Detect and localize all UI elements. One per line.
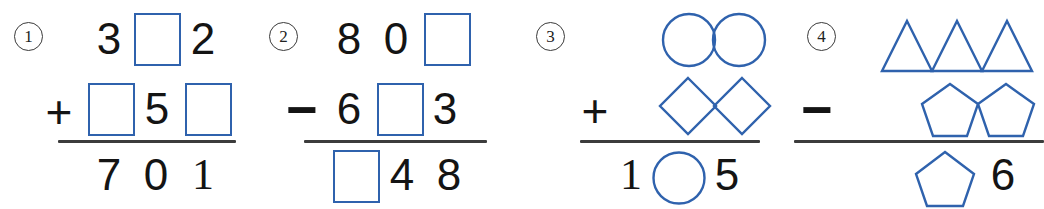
digit-cell: 5 — [710, 153, 744, 197]
digit-cell: 0 — [379, 17, 413, 61]
answer-rule — [58, 140, 236, 143]
blank-box[interactable] — [377, 83, 424, 136]
problem-index-badge: 1 — [14, 22, 43, 51]
digit-cell: 3 — [428, 87, 462, 131]
worksheet-sheet: 1 3 2 + 5 7 0 1 2 8 0 − 6 3 4 8 3 — [0, 0, 1044, 209]
digit-cell: 6 — [986, 153, 1020, 197]
problem-2: 2 8 0 − 6 3 4 8 — [258, 0, 506, 209]
pentagon-shape — [914, 150, 976, 208]
blank-box[interactable] — [424, 13, 471, 66]
digit-cell: 5 — [140, 87, 174, 131]
problem-3: 3 + 1 5 — [506, 0, 760, 209]
digit-cell: 3 — [92, 17, 126, 61]
problem-index-badge: 3 — [536, 22, 565, 51]
digit-cell: 1 — [618, 153, 644, 197]
digit-cell: 8 — [332, 17, 366, 61]
blank-box[interactable] — [333, 150, 380, 203]
operator-plus: + — [578, 88, 612, 134]
problem-index-badge: 4 — [807, 22, 836, 51]
circle-group-shape — [661, 12, 767, 68]
digit-cell: 4 — [385, 153, 419, 197]
answer-rule — [304, 140, 487, 143]
digit-cell: 8 — [432, 153, 466, 197]
operator-minus: − — [800, 86, 834, 132]
circle-shape — [651, 150, 707, 206]
digit-cell: 0 — [139, 153, 173, 197]
answer-rule — [580, 140, 760, 143]
triangle-group-shape — [880, 18, 1034, 74]
problem-1: 1 3 2 + 5 7 0 1 — [0, 0, 258, 209]
operator-minus: − — [285, 86, 319, 132]
operator-plus: + — [42, 89, 76, 135]
blank-box[interactable] — [185, 83, 232, 136]
digit-cell: 6 — [332, 87, 366, 131]
digit-cell: 2 — [186, 17, 220, 61]
diamond-group-shape — [658, 76, 772, 136]
digit-cell: 7 — [92, 153, 126, 197]
blank-box[interactable] — [88, 83, 135, 136]
pentagon-group-shape — [920, 82, 1036, 138]
problem-4: 4 − 6 — [760, 0, 1044, 209]
answer-rule — [794, 140, 1044, 143]
problem-index-badge: 2 — [269, 22, 298, 51]
digit-cell: 1 — [186, 153, 220, 197]
blank-box[interactable] — [134, 13, 181, 66]
